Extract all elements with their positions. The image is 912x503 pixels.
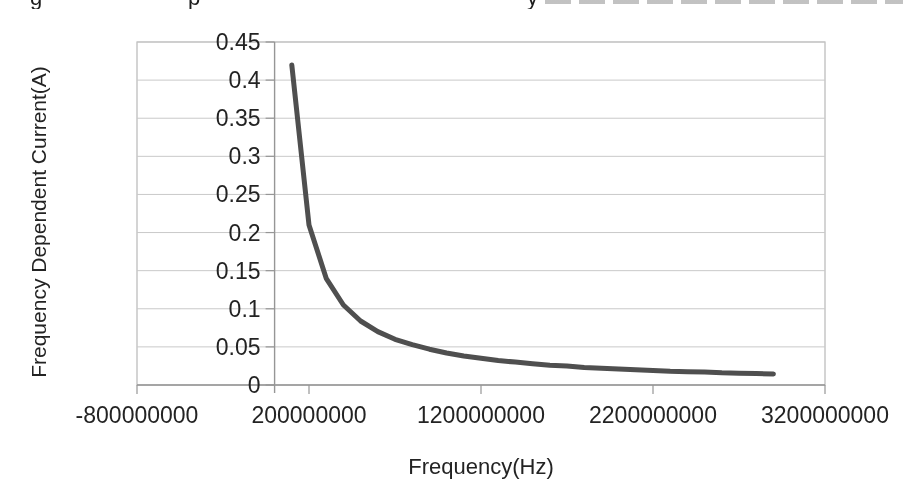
y-tick-label: 0.35 [216, 105, 261, 131]
y-tick-label: 0.3 [229, 143, 261, 169]
scanned-figure-page: gpy 00.050.10.150.20.250.30.350.40.45-80… [0, 0, 912, 503]
y-tick-label: 0.45 [216, 29, 261, 55]
y-axis-title: Frequency Dependent Current(A) [27, 66, 50, 378]
frequency-current-chart: 00.050.10.150.20.250.30.350.40.45-800000… [0, 0, 912, 503]
x-tick-label: 3200000000 [761, 402, 889, 428]
y-tick-label: 0.2 [229, 220, 261, 246]
x-tick-label: 200000000 [251, 402, 366, 428]
y-tick-label: 0.1 [229, 296, 261, 322]
x-tick-label: -800000000 [76, 402, 199, 428]
y-tick-label: 0.4 [229, 67, 261, 93]
y-tick-label: 0.15 [216, 258, 261, 284]
data-curve [292, 65, 774, 374]
x-tick-label: 1200000000 [417, 402, 545, 428]
x-tick-label: 2200000000 [589, 402, 717, 428]
y-tick-label: 0.25 [216, 181, 261, 207]
y-tick-label: 0.05 [216, 334, 261, 360]
y-tick-label: 0 [248, 372, 261, 398]
x-axis-title: Frequency(Hz) [408, 454, 553, 479]
